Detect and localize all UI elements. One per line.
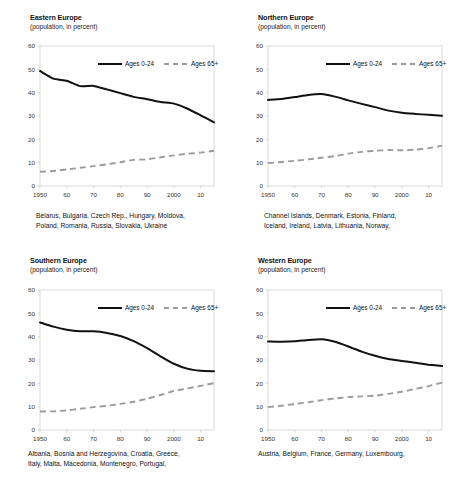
svg-text:60: 60 [291, 435, 298, 442]
svg-text:80: 80 [117, 435, 124, 442]
svg-text:70: 70 [318, 191, 325, 198]
series-ages-0-24 [40, 322, 214, 371]
legend-label-ages-0-24: Ages 0-24 [125, 60, 155, 68]
svg-text:2000: 2000 [395, 191, 409, 198]
series-ages-0-24 [40, 71, 214, 122]
svg-text:70: 70 [90, 435, 97, 442]
svg-text:10: 10 [425, 435, 432, 442]
svg-text:0: 0 [260, 182, 264, 189]
series-ages-65-plus [40, 151, 214, 172]
svg-text:40: 40 [28, 333, 35, 340]
svg-text:90: 90 [144, 191, 151, 198]
svg-text:2000: 2000 [167, 191, 181, 198]
svg-text:10: 10 [256, 159, 263, 166]
series-ages-0-24 [268, 339, 442, 366]
svg-text:60: 60 [28, 286, 35, 293]
legend-label-ages-0-24: Ages 0-24 [353, 60, 383, 68]
svg-text:10: 10 [28, 403, 35, 410]
svg-text:0: 0 [260, 426, 264, 433]
svg-text:90: 90 [372, 191, 379, 198]
svg-text:70: 70 [318, 435, 325, 442]
svg-text:80: 80 [117, 191, 124, 198]
panel-northern-europe: Northern Europe (population, in percent)… [228, 0, 457, 244]
svg-text:60: 60 [28, 42, 35, 49]
panel-southern-europe: Southern Europe (population, in percent)… [0, 244, 228, 487]
series-ages-65-plus [40, 383, 214, 411]
svg-text:90: 90 [372, 435, 379, 442]
legend-label-ages-65-plus: Ages 65+ [419, 60, 446, 68]
panel-eastern-europe: Eastern Europe (population, in percent) … [0, 0, 228, 244]
legend-label-ages-65-plus: Ages 65+ [419, 304, 446, 312]
series-ages-0-24 [268, 94, 442, 116]
svg-text:10: 10 [256, 403, 263, 410]
svg-text:40: 40 [256, 89, 263, 96]
svg-text:30: 30 [28, 112, 35, 119]
svg-text:90: 90 [144, 435, 151, 442]
svg-text:50: 50 [256, 310, 263, 317]
svg-text:50: 50 [28, 310, 35, 317]
svg-text:60: 60 [256, 42, 263, 49]
svg-text:80: 80 [345, 435, 352, 442]
svg-text:30: 30 [256, 356, 263, 363]
svg-text:60: 60 [63, 435, 70, 442]
svg-text:2000: 2000 [395, 435, 409, 442]
svg-text:20: 20 [28, 380, 35, 387]
legend-label-ages-65-plus: Ages 65+ [191, 304, 218, 312]
svg-text:0: 0 [32, 182, 36, 189]
panel-caption: Channel Islands, Denmark, Estonia, Finla… [264, 211, 396, 230]
svg-text:40: 40 [28, 89, 35, 96]
series-ages-65-plus [268, 383, 442, 408]
svg-text:60: 60 [256, 286, 263, 293]
svg-text:50: 50 [28, 66, 35, 73]
svg-text:1950: 1950 [33, 191, 47, 198]
svg-text:10: 10 [197, 191, 204, 198]
panel-caption: Albania, Bosnia and Herzegovina, Croatia… [28, 449, 180, 468]
series-ages-65-plus [268, 146, 442, 164]
svg-text:1950: 1950 [261, 435, 275, 442]
svg-text:20: 20 [256, 136, 263, 143]
svg-text:50: 50 [256, 66, 263, 73]
svg-text:30: 30 [28, 356, 35, 363]
svg-text:0: 0 [32, 426, 36, 433]
svg-text:80: 80 [345, 191, 352, 198]
svg-text:20: 20 [28, 136, 35, 143]
svg-text:30: 30 [256, 112, 263, 119]
svg-text:2000: 2000 [167, 435, 181, 442]
svg-text:60: 60 [291, 191, 298, 198]
legend-label-ages-65-plus: Ages 65+ [191, 60, 218, 68]
svg-text:1950: 1950 [261, 191, 275, 198]
svg-text:1950: 1950 [33, 435, 47, 442]
svg-text:60: 60 [63, 191, 70, 198]
chart-grid: Eastern Europe (population, in percent) … [0, 0, 457, 487]
panel-caption: Austria, Belgium, France, Germany, Luxem… [258, 449, 405, 459]
svg-text:20: 20 [256, 380, 263, 387]
legend-label-ages-0-24: Ages 0-24 [125, 304, 155, 312]
svg-text:70: 70 [90, 191, 97, 198]
svg-text:40: 40 [256, 333, 263, 340]
svg-text:10: 10 [197, 435, 204, 442]
svg-text:10: 10 [425, 191, 432, 198]
panel-caption: Belarus, Bulgaria, Czech Rep., Hungary, … [36, 211, 185, 230]
legend-label-ages-0-24: Ages 0-24 [353, 304, 383, 312]
svg-text:10: 10 [28, 159, 35, 166]
panel-western-europe: Western Europe (population, in percent) … [228, 244, 457, 487]
